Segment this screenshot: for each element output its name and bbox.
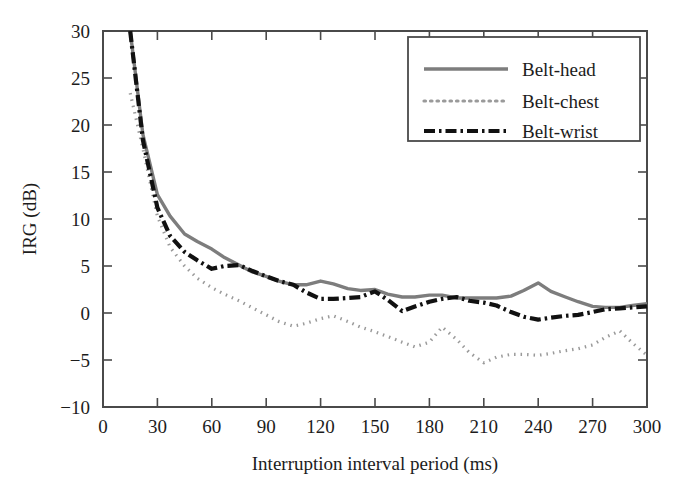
chart-legend: Belt-headBelt-chestBelt-wrist xyxy=(408,37,640,142)
y-tick-label: 5 xyxy=(81,256,91,277)
y-tick-label: 20 xyxy=(71,115,90,136)
line-chart: −10−5051015202530 0306090120150180210240… xyxy=(0,0,678,492)
y-tick-label: 10 xyxy=(71,209,90,230)
legend-label-belt-head: Belt-head xyxy=(522,59,596,80)
y-tick-label: −5 xyxy=(70,350,90,371)
x-tick-label: 270 xyxy=(578,416,607,437)
y-tick-label: 15 xyxy=(71,162,90,183)
legend-label-belt-wrist: Belt-wrist xyxy=(522,121,599,142)
x-tick-label: 150 xyxy=(361,416,390,437)
x-tick-label: 180 xyxy=(415,416,444,437)
x-tick-label: 60 xyxy=(202,416,221,437)
y-tick-label: 25 xyxy=(71,68,90,89)
x-axis-title: Interruption interval period (ms) xyxy=(252,453,498,475)
x-tick-label: 30 xyxy=(148,416,167,437)
y-tick-label: 0 xyxy=(81,303,91,324)
y-tick-label: 30 xyxy=(71,21,90,42)
x-tick-label: 240 xyxy=(524,416,553,437)
x-tick-label: 90 xyxy=(257,416,276,437)
x-tick-label: 120 xyxy=(306,416,335,437)
y-tick-label: −10 xyxy=(60,397,90,418)
chart-figure: −10−5051015202530 0306090120150180210240… xyxy=(0,0,678,492)
legend-label-belt-chest: Belt-chest xyxy=(522,91,600,112)
x-tick-label: 0 xyxy=(98,416,108,437)
x-tick-label: 210 xyxy=(470,416,499,437)
y-axis-title: IRG (dB) xyxy=(19,183,41,255)
x-tick-label: 300 xyxy=(633,416,662,437)
